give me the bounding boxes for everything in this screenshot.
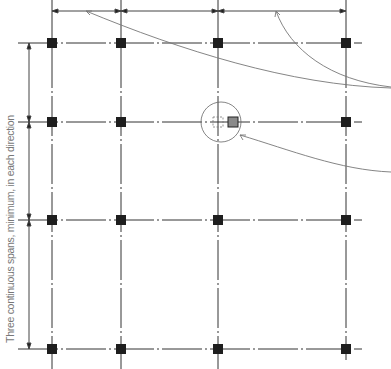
minimum-spans-label: Three continuous spans, minimum, in each… [4, 114, 18, 344]
dimension-lines-left [27, 43, 31, 349]
grid-lines [18, 0, 362, 369]
structural-grid-diagram [0, 0, 391, 369]
columns [47, 38, 351, 354]
dimension-lines-top [52, 9, 346, 13]
leader-lines [86, 11, 391, 172]
